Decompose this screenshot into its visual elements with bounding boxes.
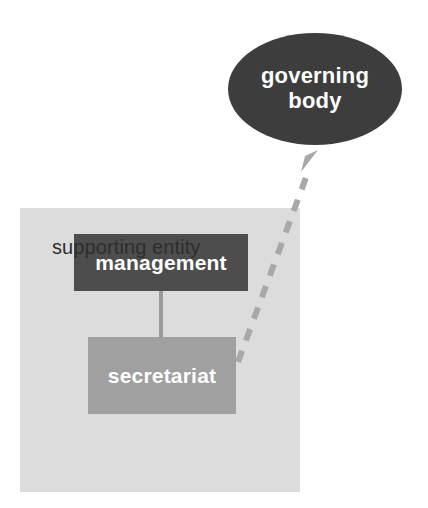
- secretariat-label: secretariat: [108, 364, 216, 388]
- secretariat-box[interactable]: secretariat: [88, 337, 236, 414]
- governing-body-label-line1: governing: [261, 64, 369, 89]
- arrowhead-icon: [301, 150, 318, 172]
- governing-body-label-line2: body: [288, 89, 341, 114]
- supporting-entity-label: supporting entity: [52, 236, 200, 259]
- governing-body-node[interactable]: governing body: [228, 33, 402, 145]
- diagram-canvas: management secretariat supporting entity…: [0, 0, 428, 508]
